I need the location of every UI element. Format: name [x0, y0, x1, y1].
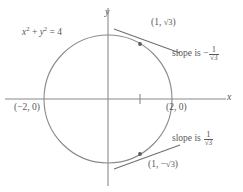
point-lower-open: (1, −: [148, 159, 166, 169]
slope-lower-denominator: √3: [204, 140, 214, 148]
tangent-line-upper: [114, 29, 180, 53]
slope-annotation-lower: slope is 1 √3: [172, 130, 214, 147]
x-axis-label: x: [227, 92, 231, 102]
point-label-lower: (1, −√3): [148, 160, 178, 170]
slope-upper-prefix: slope is: [172, 48, 203, 58]
slope-lower-numerator: 1: [204, 130, 214, 139]
equation-equals-four: = 4: [47, 27, 62, 37]
point-lower-close: ): [175, 159, 178, 169]
slope-lower-fraction: 1 √3: [204, 130, 214, 147]
slope-annotation-upper: slope is − 1 √3: [172, 45, 219, 62]
slope-upper-sign: −: [203, 48, 208, 58]
slope-upper-fraction: 1 √3: [209, 45, 219, 62]
point-label-left: (−2, 0): [14, 103, 40, 113]
circle-equation-label: x2 + y2 = 4: [22, 28, 62, 38]
circle-tangents-figure: x2 + y2 = 4 y x (1, √3) (1, −√3) (−2, 0)…: [0, 0, 243, 192]
slope-upper-denominator: √3: [209, 55, 219, 63]
slope-upper-numerator: 1: [209, 45, 219, 54]
point-marker-lower: [138, 152, 142, 156]
point-lower-radical: √3: [166, 160, 175, 169]
equation-plus: +: [30, 27, 40, 37]
point-marker-upper: [138, 42, 142, 46]
point-label-upper: (1, √3): [151, 18, 176, 28]
point-upper-close: ): [172, 17, 175, 27]
point-upper-open: (1,: [151, 17, 164, 27]
point-label-right: (2, 0): [166, 103, 187, 113]
slope-lower-prefix: slope is: [172, 133, 203, 143]
y-axis-label: y: [105, 7, 109, 17]
